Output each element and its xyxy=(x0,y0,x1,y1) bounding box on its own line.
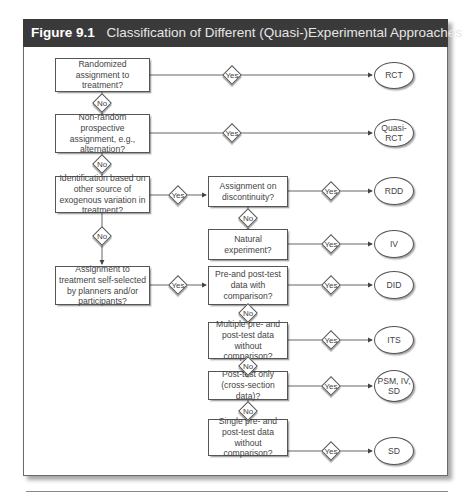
outcome-sd: SD xyxy=(374,437,414,465)
decision-discontinuity: Assignment on discontinuity? xyxy=(208,176,288,207)
outcome-rct: RCT xyxy=(374,62,414,89)
outcome-iv: IV xyxy=(374,230,414,258)
outcome-its: ITS xyxy=(374,326,414,354)
no-diamond: No xyxy=(237,302,259,324)
no-diamond: No xyxy=(91,153,113,175)
decision-natural: Natural experiment? xyxy=(208,229,288,260)
no-diamond: No xyxy=(91,92,113,114)
horizontal-rule xyxy=(26,491,448,492)
yes-diamond: Yes xyxy=(167,184,189,206)
outcome-psm-iv-sd: PSM, IV, SD xyxy=(374,370,414,402)
yes-diamond: Yes xyxy=(320,329,342,351)
decision-self-selected: Assignment to treatment self-selected by… xyxy=(55,266,150,305)
yes-diamond: Yes xyxy=(320,233,342,255)
decision-multiple-pre-post: Multiple pre- and post-test data without… xyxy=(208,322,288,359)
yes-diamond: Yes xyxy=(320,375,342,397)
no-diamond: No xyxy=(237,207,259,229)
decision-pre-post-comparison: Pre-and post-test data with comparison? xyxy=(208,266,288,305)
decision-single-pre-post: Single pre- and post-test data without c… xyxy=(208,419,288,456)
decision-identification: Identification based on other source of … xyxy=(55,176,150,213)
no-diamond: No xyxy=(237,400,259,422)
yes-diamond: Yes xyxy=(320,274,342,296)
yes-diamond: Yes xyxy=(320,180,342,202)
yes-diamond: Yes xyxy=(167,274,189,296)
decision-nonrandom: Non-random prospective assignment, e.g.,… xyxy=(55,114,150,153)
outcome-quasi-rct: Quasi-RCT xyxy=(374,119,414,147)
yes-diamond: Yes xyxy=(221,122,243,144)
outcome-rdd: RDD xyxy=(374,177,414,205)
outcome-did: DID xyxy=(374,271,414,299)
no-diamond: No xyxy=(237,355,259,377)
yes-diamond: Yes xyxy=(221,64,243,86)
yes-diamond: Yes xyxy=(320,440,342,462)
decision-randomized: Randomized assignment to treatment? xyxy=(55,58,150,92)
no-diamond: No xyxy=(91,225,113,247)
